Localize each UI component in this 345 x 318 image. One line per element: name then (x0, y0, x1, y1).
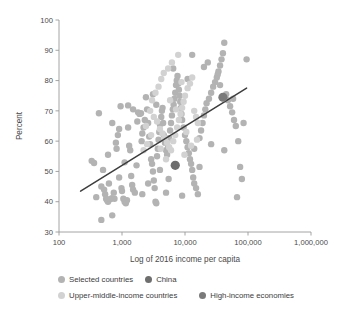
data-point (109, 212, 115, 218)
data-point (206, 96, 212, 102)
data-point (176, 86, 182, 92)
data-point (187, 80, 193, 86)
y-axis-ticks: 30405060708090100 (40, 16, 59, 237)
data-point (127, 147, 133, 153)
legend-swatch-icon (58, 292, 65, 299)
y-tick-label: 80 (45, 76, 53, 85)
data-point (195, 191, 201, 197)
y-tick-label: 90 (45, 46, 53, 55)
data-point (145, 180, 151, 186)
data-point (113, 146, 119, 152)
legend-label: High-income economies (210, 292, 294, 300)
data-point (221, 40, 227, 46)
chart-legend: Selected countries China Upper-middle-in… (0, 272, 345, 316)
data-point (198, 127, 204, 133)
legend-swatch-icon (199, 292, 206, 299)
data-point (176, 117, 182, 123)
data-point (139, 191, 145, 197)
data-point (194, 136, 200, 142)
legend-item-upper-middle-income-countries[interactable]: Upper-middle-income countries (58, 292, 177, 300)
data-point (218, 56, 224, 62)
data-point (151, 185, 157, 191)
data-point (239, 176, 245, 182)
data-point (96, 110, 102, 116)
data-point (115, 132, 121, 138)
data-point (116, 174, 122, 180)
data-point (152, 89, 158, 95)
data-point (150, 168, 156, 174)
legend-item-high-income-economies[interactable]: High-income economies (199, 292, 294, 300)
data-point (233, 123, 239, 129)
data-point (154, 118, 160, 124)
chart-figure: 30405060708090100 1001,00010,000100,0001… (0, 0, 345, 318)
data-point (100, 167, 106, 173)
data-point (157, 146, 163, 152)
data-point (105, 152, 111, 158)
data-point (109, 120, 115, 126)
data-point (188, 161, 194, 167)
legend-row-1: Selected countries China (0, 272, 345, 288)
data-point (183, 129, 189, 135)
legend-row-2: Upper-middle-income countries High-incom… (0, 288, 345, 304)
y-tick-label: 70 (45, 107, 53, 116)
x-tick-label: 1,000,000 (294, 238, 328, 247)
data-point (234, 194, 240, 200)
data-point (151, 177, 157, 183)
data-point (138, 110, 144, 116)
trend-line (81, 88, 247, 191)
legend-item-china[interactable]: China (145, 276, 176, 284)
data-point (196, 164, 202, 170)
data-point (182, 93, 188, 99)
data-point (111, 195, 117, 201)
data-point (214, 71, 220, 77)
legend-swatch-icon (58, 276, 65, 283)
x-tick-label: 100 (53, 238, 66, 247)
data-point (111, 189, 117, 195)
y-tick-label: 50 (45, 167, 53, 176)
data-point (189, 167, 195, 173)
data-point (167, 127, 173, 133)
y-tick-label: 30 (45, 228, 53, 237)
data-point (170, 138, 176, 144)
data-point (106, 180, 112, 186)
data-point (169, 112, 175, 118)
data-point (181, 152, 187, 158)
data-point (163, 156, 169, 162)
legend-label: Selected countries (69, 276, 133, 284)
data-point (167, 97, 173, 103)
data-point (93, 194, 99, 200)
data-point (153, 200, 159, 206)
data-point (148, 132, 154, 138)
legend-item-selected-countries[interactable]: Selected countries (58, 276, 133, 284)
data-point (134, 118, 140, 124)
data-point (221, 147, 227, 153)
data-point (173, 106, 179, 112)
highlight-data-point (218, 93, 227, 102)
legend-label: Upper-middle-income countries (69, 292, 177, 300)
data-point (149, 161, 155, 167)
x-axis-ticks: 1001,00010,000100,0001,000,000 (53, 232, 328, 247)
data-point (180, 99, 186, 105)
data-point (217, 82, 223, 88)
data-point (243, 56, 249, 62)
highlight-data-point (171, 161, 180, 170)
x-tick-label: 100,000 (234, 238, 261, 247)
data-point (133, 162, 139, 168)
data-point (155, 83, 161, 89)
data-point (165, 176, 171, 182)
y-axis-title: Percent (15, 111, 24, 140)
data-point (235, 138, 241, 144)
data-points-layer (88, 40, 249, 224)
data-point (178, 79, 184, 85)
data-point (154, 153, 160, 159)
data-point (177, 111, 183, 117)
data-point (220, 50, 226, 56)
data-point (190, 174, 196, 180)
data-point (132, 189, 138, 195)
data-point (158, 76, 164, 82)
data-point (144, 141, 150, 147)
data-point (229, 109, 235, 115)
data-point (116, 126, 122, 132)
data-point (138, 138, 144, 144)
data-point (128, 173, 134, 179)
